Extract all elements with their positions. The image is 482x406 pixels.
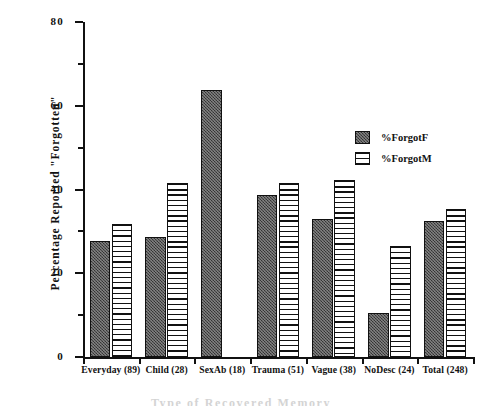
legend-item-forgotm: %ForgotM <box>355 148 465 169</box>
bar-chart: Percentage Reported "Forgotten" 02040608… <box>0 0 482 406</box>
bar-forgotf <box>145 237 166 357</box>
y-tick-minor <box>78 147 83 149</box>
x-tick-label: NoDesc (24) <box>364 364 414 375</box>
x-tick-label: Child (28) <box>145 364 187 375</box>
y-tick-minor <box>78 314 83 316</box>
bar-forgotf <box>424 221 445 357</box>
x-tick-label: Everyday (89) <box>81 364 140 375</box>
bar-forgotf <box>201 90 222 357</box>
y-tick-minor <box>78 63 83 65</box>
x-tick <box>194 357 196 364</box>
x-tick-label: SexAb (18) <box>199 364 245 375</box>
plot-area: 020406080 <box>83 22 473 357</box>
y-tick-label: 60 <box>51 99 64 111</box>
bar-forgotf <box>312 219 333 357</box>
y-tick-label: 0 <box>57 350 64 362</box>
x-tick <box>139 357 141 364</box>
y-tick-major: 0 <box>75 356 83 358</box>
chart-legend: %ForgotF %ForgotM <box>355 127 465 169</box>
legend-item-forgotf: %ForgotF <box>355 127 465 148</box>
bar-forgotf <box>257 195 278 357</box>
legend-swatch-forgotf-icon <box>355 131 370 144</box>
y-tick-major: 20 <box>75 272 83 274</box>
bar-forgotf <box>368 313 389 357</box>
bar-forgotm <box>167 183 188 357</box>
x-tick-label: Total (248) <box>423 364 468 375</box>
y-tick-minor <box>78 230 83 232</box>
x-tick <box>83 357 85 364</box>
legend-label-forgotf: %ForgotF <box>381 132 428 143</box>
x-tick <box>306 357 308 364</box>
x-tick <box>417 357 419 364</box>
bar-forgotm <box>279 183 300 357</box>
x-tick <box>362 357 364 364</box>
legend-swatch-forgotm-icon <box>355 152 370 165</box>
bar-forgotm <box>390 246 411 357</box>
y-tick-major: 80 <box>75 21 83 23</box>
x-tick <box>250 357 252 364</box>
bar-forgotm <box>446 209 467 357</box>
y-axis-line <box>83 22 85 358</box>
bar-forgotf <box>90 241 111 357</box>
x-axis-labels: Everyday (89)Child (28)SexAb (18)Trauma … <box>83 364 475 378</box>
y-tick-major: 40 <box>75 189 83 191</box>
x-axis-title: Type of Recovered Memory <box>0 396 482 406</box>
bar-forgotm <box>334 180 355 357</box>
y-tick-label: 80 <box>51 15 64 27</box>
y-tick-label: 40 <box>51 183 64 195</box>
legend-label-forgotm: %ForgotM <box>381 153 432 164</box>
x-tick-label: Trauma (51) <box>252 364 304 375</box>
x-tick-label: Vague (38) <box>311 364 356 375</box>
y-tick-major: 60 <box>75 105 83 107</box>
y-tick-label: 20 <box>51 266 64 278</box>
bar-forgotm <box>112 224 133 357</box>
x-tick <box>473 357 475 364</box>
x-axis-line <box>83 357 473 359</box>
